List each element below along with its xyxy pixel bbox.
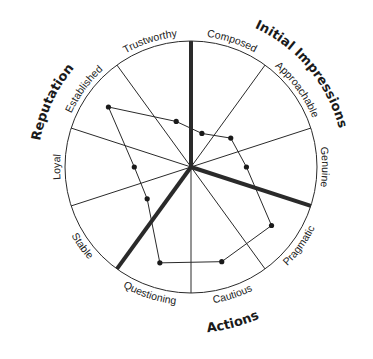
data-point-trustworthy	[174, 119, 179, 124]
group-divider-spoke	[191, 167, 311, 206]
axis-label-trustworthy: Trustworthy	[121, 27, 178, 56]
spoke	[191, 167, 265, 269]
spokes	[71, 41, 311, 293]
data-point-questioning	[157, 260, 162, 265]
axis-label-genuine: Genuine	[319, 146, 333, 188]
spoke	[191, 65, 265, 167]
data-point-cautious	[219, 259, 224, 264]
spoke	[71, 128, 191, 167]
data-point-stable	[145, 196, 150, 201]
axis-label-composed: Composed	[206, 27, 259, 54]
data-point-established	[106, 104, 111, 109]
group-divider-spoke	[117, 167, 191, 269]
spoke	[71, 167, 191, 206]
axis-label-questioning: Questioning	[122, 278, 178, 306]
spoke	[191, 128, 311, 167]
data-point-composed	[199, 131, 204, 136]
axis-label-loyal: Loyal	[50, 154, 63, 181]
data-point-loyal	[132, 164, 137, 169]
radar-chart: ComposedApproachableGenuinePragmaticCaut…	[0, 0, 373, 359]
axis-label-cautious: Cautious	[212, 281, 254, 305]
group-label-actions: Actions	[206, 307, 261, 335]
data-point-approachable	[228, 136, 233, 141]
data-point-pragmatic	[269, 223, 274, 228]
group-label-initial-impressions: Initial Impressions	[253, 17, 351, 130]
axis-label-pragmatic: Pragmatic	[280, 223, 317, 267]
data-point-genuine	[244, 164, 249, 169]
